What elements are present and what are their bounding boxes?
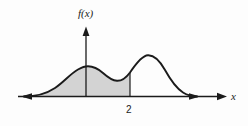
y-axis-label: f(x) bbox=[78, 8, 93, 19]
x-axis-arrowhead-icon bbox=[217, 93, 227, 100]
x-axis-label: x bbox=[231, 91, 236, 102]
curve-left-arrowhead-icon bbox=[21, 93, 32, 100]
y-axis-arrowhead-icon bbox=[83, 27, 90, 37]
function-graph-svg bbox=[0, 0, 248, 126]
x-tick-label-2: 2 bbox=[126, 105, 132, 115]
figure-container: f(x) x 2 bbox=[0, 0, 248, 126]
curve-right-arrowhead-icon bbox=[189, 93, 200, 100]
